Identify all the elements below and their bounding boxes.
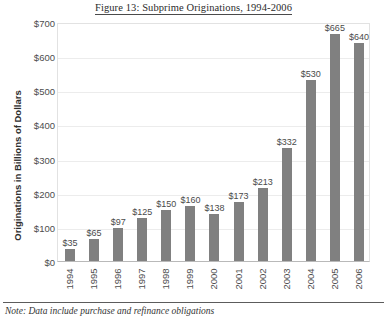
x-tick-slot: 2005	[322, 263, 346, 299]
bar-slot: $665	[323, 24, 347, 261]
x-axis-tick-label: 2006	[352, 268, 363, 289]
x-tick-slot: 2006	[346, 263, 370, 299]
bar-value-label: $213	[253, 177, 273, 187]
y-axis-tick-label: $400	[3, 120, 55, 131]
x-tick-slot: 2004	[298, 263, 322, 299]
bar-value-label: $332	[277, 137, 297, 147]
x-axis-tick-label: 1999	[184, 268, 195, 289]
bar	[65, 249, 75, 261]
x-tick-slot: 2000	[201, 263, 225, 299]
bar	[354, 43, 364, 262]
bar-slot: $138	[202, 24, 226, 261]
x-axis-tick-label: 2004	[304, 268, 315, 289]
figure-container: Figure 13: Subprime Originations, 1994-2…	[0, 0, 387, 321]
bar-slot: $125	[130, 24, 154, 261]
bar-slot: $173	[227, 24, 251, 261]
bar	[234, 202, 244, 261]
bar-slot: $530	[299, 24, 323, 261]
x-tick-slot: 1995	[81, 263, 105, 299]
bar	[137, 218, 147, 261]
x-axis-tick-label: 2003	[280, 268, 291, 289]
bar-value-label: $173	[229, 191, 249, 201]
x-tick-slot: 1999	[177, 263, 201, 299]
bar	[330, 34, 340, 261]
chart-title-text: Figure 13: Subprime Originations, 1994-2…	[95, 2, 292, 15]
x-tick-slot: 1997	[129, 263, 153, 299]
bar	[306, 80, 316, 261]
x-axis-tick-label: 2001	[232, 268, 243, 289]
bar-slot: $35	[58, 24, 82, 261]
x-axis-tick-label: 1994	[64, 268, 75, 289]
x-tick-slot: 2001	[226, 263, 250, 299]
bar	[89, 239, 99, 261]
bar	[258, 188, 268, 261]
bar-value-label: $665	[325, 23, 345, 33]
x-axis-tick-label: 1998	[160, 268, 171, 289]
x-tick-slot: 2003	[274, 263, 298, 299]
bar-slot: $150	[154, 24, 178, 261]
footnote-text: Note: Data include purchase and refinanc…	[5, 306, 214, 316]
bar-slot: $640	[347, 24, 371, 261]
bar	[282, 148, 292, 261]
x-axis-tick-label: 2002	[256, 268, 267, 289]
bar-value-label: $530	[301, 69, 321, 79]
y-axis-tick-labels: $0$100$200$300$400$500$600$700	[0, 23, 55, 262]
plot-area: $35$65$97$125$150$160$138$173$213$332$53…	[57, 23, 370, 262]
bar	[113, 228, 123, 261]
bar-value-label: $160	[180, 195, 200, 205]
y-axis-tick-label: $600	[3, 52, 55, 63]
bar-slot: $213	[251, 24, 275, 261]
x-axis-tick-label: 1995	[88, 268, 99, 289]
bar	[209, 214, 219, 261]
x-axis-tick-label: 1997	[136, 268, 147, 289]
bar-value-label: $125	[132, 207, 152, 217]
bar-slot: $332	[275, 24, 299, 261]
bar-value-label: $150	[156, 199, 176, 209]
bar-value-label: $640	[349, 32, 369, 42]
y-axis-tick-label: $300	[3, 154, 55, 165]
y-axis-tick-label: $500	[3, 86, 55, 97]
footnote-divider	[3, 302, 384, 303]
x-tick-slot: 1996	[105, 263, 129, 299]
x-axis-tick-label: 2000	[208, 268, 219, 289]
bar-slot: $97	[106, 24, 130, 261]
y-axis-tick-label: $100	[3, 222, 55, 233]
bar-value-label: $35	[63, 238, 78, 248]
x-tick-slot: 1994	[57, 263, 81, 299]
x-axis-tick-label: 1996	[112, 268, 123, 289]
bar-value-label: $97	[111, 217, 126, 227]
y-axis-tick-label: $700	[3, 18, 55, 29]
x-tick-slot: 1998	[153, 263, 177, 299]
bar	[161, 210, 171, 261]
x-axis-tick-label: 2005	[328, 268, 339, 289]
x-tick-slot: 2002	[250, 263, 274, 299]
y-axis-tick-label: $200	[3, 188, 55, 199]
bar	[185, 206, 195, 261]
bar-slot: $160	[178, 24, 202, 261]
bar-value-label: $65	[87, 228, 102, 238]
bar-slot: $65	[82, 24, 106, 261]
chart-title: Figure 13: Subprime Originations, 1994-2…	[0, 2, 387, 13]
y-axis-tick-label: $0	[3, 257, 55, 268]
x-axis-tick-labels: 1994199519961997199819992000200120022003…	[57, 263, 370, 299]
bar-value-label: $138	[204, 203, 224, 213]
